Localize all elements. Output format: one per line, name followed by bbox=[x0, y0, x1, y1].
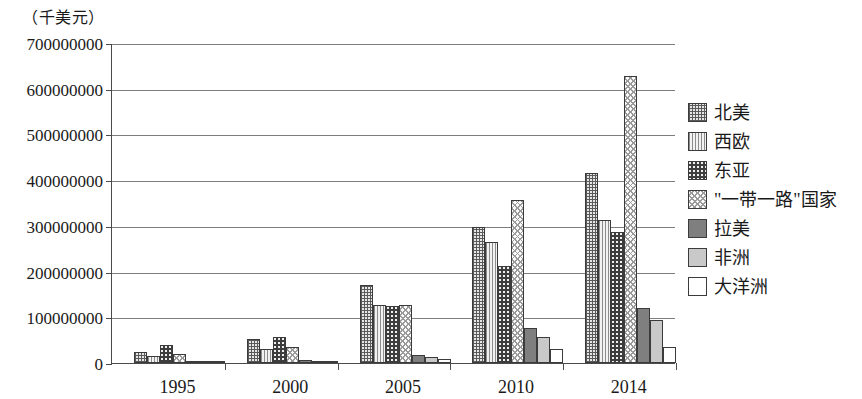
bar bbox=[585, 173, 598, 363]
bar bbox=[650, 320, 663, 363]
y-axis-tick bbox=[106, 90, 112, 91]
x-axis-label: 2005 bbox=[385, 377, 421, 398]
bar bbox=[312, 361, 325, 363]
y-axis-label: 300000000 bbox=[27, 218, 104, 235]
x-axis-tick bbox=[563, 363, 564, 370]
x-axis-label: 1995 bbox=[160, 377, 196, 398]
legend-swatch-icon bbox=[688, 132, 707, 151]
bar bbox=[472, 227, 485, 363]
x-axis-tick bbox=[676, 363, 677, 370]
bar bbox=[537, 337, 550, 363]
bar bbox=[498, 266, 511, 363]
bar bbox=[399, 305, 412, 363]
bar bbox=[286, 347, 299, 363]
legend-item[interactable]: 西欧 bbox=[688, 127, 862, 156]
legend-label: "一带一路"国家 bbox=[714, 191, 837, 209]
plot-area: 0100000000200000000300000000400000000500… bbox=[111, 44, 675, 364]
bar bbox=[212, 361, 225, 363]
y-axis-tick bbox=[106, 44, 112, 45]
legend-swatch-icon bbox=[688, 219, 707, 238]
bar-group bbox=[585, 44, 676, 363]
bar bbox=[412, 355, 425, 363]
bar bbox=[598, 220, 611, 363]
bar-group bbox=[472, 44, 563, 363]
bar-chart: （千美元） 0100000000200000000300000000400000… bbox=[0, 0, 862, 399]
y-axis-label: 700000000 bbox=[27, 36, 104, 53]
y-axis-tick bbox=[106, 318, 112, 319]
bar bbox=[485, 242, 498, 363]
bar bbox=[637, 308, 650, 363]
legend-swatch-icon bbox=[688, 190, 707, 209]
y-axis-label: 500000000 bbox=[27, 127, 104, 144]
bar-group bbox=[247, 44, 338, 363]
bar-group bbox=[134, 44, 225, 363]
y-axis-label: 400000000 bbox=[27, 173, 104, 190]
legend-label: 西欧 bbox=[714, 133, 750, 151]
legend-item[interactable]: 东亚 bbox=[688, 156, 862, 185]
y-axis-tick bbox=[106, 227, 112, 228]
legend-swatch-icon bbox=[688, 277, 707, 296]
chart-legend: 北美西欧东亚"一带一路"国家拉美非洲大洋洲 bbox=[688, 98, 862, 301]
legend-label: 东亚 bbox=[714, 162, 750, 180]
y-axis-label: 0 bbox=[95, 356, 104, 373]
bar bbox=[160, 345, 173, 363]
bar bbox=[134, 352, 147, 363]
bar bbox=[260, 349, 273, 363]
y-axis-tick bbox=[106, 364, 112, 365]
legend-item[interactable]: 拉美 bbox=[688, 214, 862, 243]
y-axis-tick bbox=[106, 135, 112, 136]
x-axis-tick bbox=[225, 363, 226, 370]
bar bbox=[186, 361, 199, 363]
legend-item[interactable]: 大洋洲 bbox=[688, 272, 862, 301]
legend-label: 北美 bbox=[714, 104, 750, 122]
legend-swatch-icon bbox=[688, 248, 707, 267]
bar bbox=[299, 360, 312, 363]
bar bbox=[373, 305, 386, 363]
unit-caption: （千美元） bbox=[22, 4, 105, 28]
y-axis-label: 200000000 bbox=[27, 264, 104, 281]
legend-label: 大洋洲 bbox=[714, 278, 768, 296]
bar bbox=[624, 76, 637, 363]
y-axis-label: 600000000 bbox=[27, 81, 104, 98]
legend-swatch-icon bbox=[688, 161, 707, 180]
legend-item[interactable]: 北美 bbox=[688, 98, 862, 127]
x-axis-label: 2014 bbox=[611, 377, 647, 398]
bar bbox=[360, 285, 373, 363]
legend-item[interactable]: "一带一路"国家 bbox=[688, 185, 862, 214]
bar bbox=[438, 359, 451, 363]
bar bbox=[524, 328, 537, 363]
bar bbox=[273, 337, 286, 364]
y-axis-tick bbox=[106, 273, 112, 274]
bar bbox=[425, 357, 438, 363]
legend-label: 拉美 bbox=[714, 220, 750, 238]
x-axis-tick bbox=[450, 363, 451, 370]
bar bbox=[325, 361, 338, 363]
y-axis-label: 100000000 bbox=[27, 310, 104, 327]
x-axis-label: 2000 bbox=[272, 377, 308, 398]
legend-label: 非洲 bbox=[714, 249, 750, 267]
bar-group bbox=[360, 44, 451, 363]
bar bbox=[550, 349, 563, 363]
legend-item[interactable]: 非洲 bbox=[688, 243, 862, 272]
legend-swatch-icon bbox=[688, 103, 707, 122]
bar bbox=[386, 306, 399, 363]
bar bbox=[511, 200, 524, 363]
bar bbox=[199, 361, 212, 363]
x-axis-tick bbox=[338, 363, 339, 370]
bar bbox=[247, 339, 260, 363]
bar bbox=[173, 354, 186, 363]
x-axis-label: 2010 bbox=[498, 377, 534, 398]
bar bbox=[147, 356, 160, 363]
bar bbox=[663, 347, 676, 363]
bar bbox=[611, 232, 624, 363]
y-axis-tick bbox=[106, 181, 112, 182]
